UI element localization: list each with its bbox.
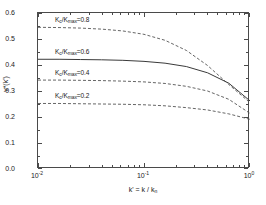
x-tick-label-2: 100 [244, 170, 255, 179]
y-tick-label-0: 0.6 [5, 9, 15, 16]
y-tick-label-6: 0.0 [5, 165, 15, 172]
y-tick-label-4: 0.2 [5, 113, 15, 120]
curve-annotation-1: Kc/Kmax=0.6 [55, 48, 89, 56]
x-axis-title-subscript: n [154, 188, 157, 194]
curve-3 [38, 103, 250, 119]
x-tick-label-0: 10-2 [31, 170, 43, 179]
x-axis-title-text: k' = k / k [129, 186, 155, 193]
plot-area: Kc/Kmax=0.8 Kc/Kmax=0.6 Kc/Kmax=0.4 Kc/K… [37, 12, 249, 168]
x-axis-title: k' = k / kn [129, 186, 157, 194]
curve-annotation-0: Kc/Kmax=0.8 [55, 16, 89, 24]
curve-annotation-2: Kc/Kmax=0.4 [55, 69, 89, 77]
curve-annotation-3: Kc/Kmax=0.2 [55, 92, 89, 100]
y-tick-label-2: 0.4 [5, 61, 15, 68]
figure-container: v*(k') k' = k / kn 0.6 0.5 0.4 0.3 0.2 0… [0, 0, 266, 205]
y-tick-label-1: 0.5 [5, 35, 15, 42]
y-tick-label-3: 0.3 [5, 87, 15, 94]
y-tick-label-5: 0.1 [5, 139, 15, 146]
curves-layer [38, 13, 250, 169]
x-tick-label-1: 10-1 [137, 170, 149, 179]
